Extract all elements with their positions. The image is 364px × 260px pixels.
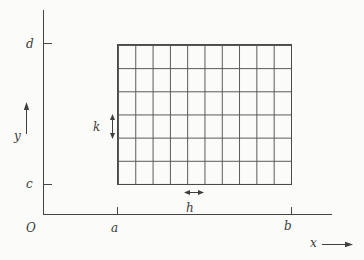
x-axis-tick-a (117, 207, 118, 214)
x-axis-label: x (310, 237, 317, 249)
y-direction-arrow-icon (22, 102, 31, 134)
y-axis-tick-c (44, 184, 52, 185)
figure-canvas: d c O a b y x k h (0, 0, 364, 260)
x-tick-label-b: b (284, 220, 292, 232)
y-axis-label: y (14, 130, 21, 142)
cell-height-double-arrow-icon (108, 114, 117, 139)
cell-height-label-k: k (93, 121, 100, 133)
x-axis-tick-b (291, 207, 292, 214)
cell-width-label-h: h (186, 202, 194, 214)
x-direction-arrow-icon (322, 240, 353, 249)
cell-width-double-arrow-icon (184, 188, 204, 197)
y-tick-label-c: c (26, 178, 33, 190)
grid-mesh (117, 44, 292, 185)
y-axis-tick-d (44, 43, 52, 44)
x-tick-label-a: a (111, 222, 118, 234)
origin-label: O (26, 222, 36, 234)
y-tick-label-d: d (26, 38, 34, 50)
